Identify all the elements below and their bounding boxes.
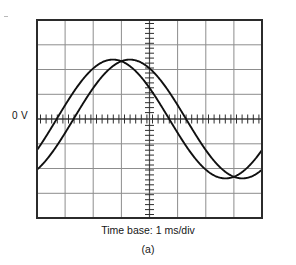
scan-artifact-speck xyxy=(4,16,8,17)
panel-label: (a) xyxy=(0,243,296,255)
oscilloscope-figure: 0 V Time base: 1 ms/div (a) xyxy=(0,0,296,265)
timebase-caption: Time base: 1 ms/div xyxy=(0,224,296,236)
zero-volt-label: 0 V xyxy=(12,110,28,121)
